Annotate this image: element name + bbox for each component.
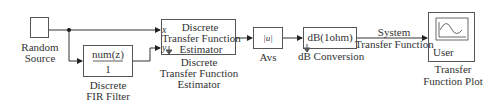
- user-plot-label-1: Transfer: [420, 64, 486, 75]
- signal-label-2: Transfer Function: [355, 39, 433, 50]
- abs-label: Avs: [248, 52, 288, 63]
- signal-label-1: System: [355, 27, 433, 38]
- db-inner: dB(1ohm): [303, 31, 357, 43]
- abs-inner: |u|: [253, 32, 283, 44]
- fir-denominator: 1: [83, 63, 133, 75]
- signal-source-to-fir[interactable]: [69, 30, 82, 61]
- estimator-label-3: Estimator: [156, 79, 242, 90]
- db-label: dB Conversion: [298, 51, 364, 62]
- user-plot-label-2: Function Plot: [420, 76, 486, 87]
- estimator-inner-3: Estimator: [166, 43, 236, 55]
- port-y-label: y: [162, 42, 166, 54]
- port-x-label: x: [162, 24, 166, 36]
- random-source-block[interactable]: [30, 17, 49, 38]
- fir-numerator: num(z): [83, 48, 133, 60]
- random-source-label-2: Source: [19, 53, 61, 64]
- user-plot-inner: User: [433, 46, 454, 58]
- fir-label-2: FIR Filter: [78, 91, 138, 101]
